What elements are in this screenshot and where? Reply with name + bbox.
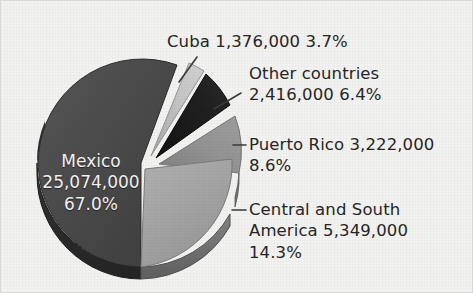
slice-label-other-countries: Other countries 2,416,000 6.4% xyxy=(249,63,382,106)
slice-label-central-south-america: Central and South America 5,349,000 14.3… xyxy=(249,199,408,263)
slice-label-cuba: Cuba 1,376,000 3.7% xyxy=(167,31,348,52)
slice-label-puerto-rico: Puerto Rico 3,222,000 8.6% xyxy=(249,134,434,177)
slice-label-mexico: Mexico 25,074,000 67.0% xyxy=(25,151,157,215)
pie-chart-figure: Cuba 1,376,000 3.7% Other countries 2,41… xyxy=(0,0,473,293)
side-wall-puerto-rico xyxy=(235,173,239,207)
